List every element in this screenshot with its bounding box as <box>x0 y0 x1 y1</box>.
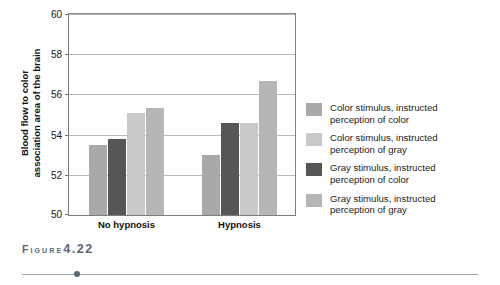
legend-label-line1: Gray stimulus, instructed <box>330 162 436 174</box>
y-axis-title-line2: association area of the brain <box>31 13 43 213</box>
y-tick-mark <box>65 14 69 15</box>
y-tick-mark <box>65 94 69 95</box>
legend-label: Gray stimulus, instructedperception of g… <box>330 193 436 216</box>
legend-swatch <box>306 133 322 146</box>
y-tick-label: 50 <box>51 209 62 220</box>
caption-divider <box>22 274 478 275</box>
y-tick-label: 58 <box>51 49 62 60</box>
y-tick-label: 54 <box>51 129 62 140</box>
plot-area: 505254565860 <box>68 13 296 216</box>
legend-swatch <box>306 194 322 207</box>
bar <box>221 123 239 215</box>
legend-label-line1: Gray stimulus, instructed <box>330 193 436 205</box>
y-tick-label: 52 <box>51 169 62 180</box>
bar <box>89 145 107 215</box>
legend-item: Gray stimulus, instructedperception of g… <box>306 193 498 216</box>
figure-caption-number: 4.22 <box>63 242 94 256</box>
gridline <box>69 54 295 55</box>
y-tick-label: 60 <box>51 9 62 20</box>
y-axis-title: Blood flow to color association area of … <box>19 13 49 213</box>
legend-label-line2: perception of gray <box>330 144 438 156</box>
bar <box>127 113 145 216</box>
x-axis-label-no-hypnosis: No hypnosis <box>98 219 155 230</box>
bar-chart: Blood flow to color association area of … <box>0 0 500 238</box>
legend-label: Color stimulus, instructedperception of … <box>330 102 438 125</box>
legend-label: Color stimulus, instructedperception of … <box>330 132 438 155</box>
y-tick-mark <box>65 54 69 55</box>
legend-label-line2: perception of gray <box>330 204 436 216</box>
caption-dot-icon <box>74 271 80 277</box>
y-tick-mark <box>65 135 69 136</box>
y-tick-mark <box>65 214 69 215</box>
legend-item: Color stimulus, instructedperception of … <box>306 102 498 125</box>
bar <box>202 155 220 215</box>
legend-swatch <box>306 163 322 176</box>
bar <box>259 81 277 215</box>
chart-legend: Color stimulus, instructedperception of … <box>306 102 498 223</box>
x-axis-label-hypnosis: Hypnosis <box>218 219 261 230</box>
bar <box>108 139 126 215</box>
y-tick-label: 56 <box>51 89 62 100</box>
legend-label: Gray stimulus, instructedperception of c… <box>330 162 436 185</box>
figure-caption-word: Figure <box>22 243 63 255</box>
legend-swatch <box>306 103 322 116</box>
legend-label-line1: Color stimulus, instructed <box>330 102 438 114</box>
bar <box>240 123 258 215</box>
figure-caption: Figure4.22 <box>22 242 94 256</box>
legend-item: Color stimulus, instructedperception of … <box>306 132 498 155</box>
legend-label-line2: perception of color <box>330 174 436 186</box>
legend-label-line2: perception of color <box>330 114 438 126</box>
bar <box>146 108 164 215</box>
y-axis-title-line1: Blood flow to color <box>19 13 31 213</box>
y-tick-mark <box>65 175 69 176</box>
figure-container: Blood flow to color association area of … <box>0 0 500 285</box>
legend-item: Gray stimulus, instructedperception of c… <box>306 162 498 185</box>
figure-caption-block: Figure4.22 <box>0 240 500 285</box>
legend-label-line1: Color stimulus, instructed <box>330 132 438 144</box>
gridline <box>69 14 295 15</box>
